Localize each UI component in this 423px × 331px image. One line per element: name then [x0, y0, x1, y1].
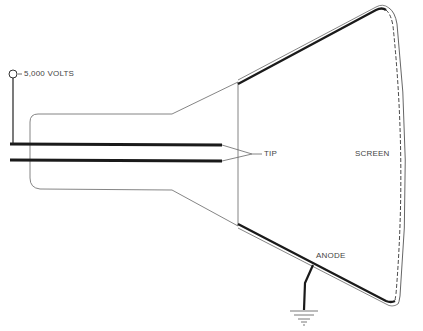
tip-label: TIP — [264, 149, 277, 158]
anode-label: ANODE — [316, 251, 345, 260]
electrode-top — [10, 144, 222, 145]
crt-diagram-main — [0, 0, 423, 331]
terminal-circle-icon — [9, 70, 17, 78]
electrode-bottom — [10, 160, 222, 161]
screen-label: SCREEN — [355, 149, 390, 158]
voltage-label: 5,000 VOLTS — [24, 69, 74, 78]
